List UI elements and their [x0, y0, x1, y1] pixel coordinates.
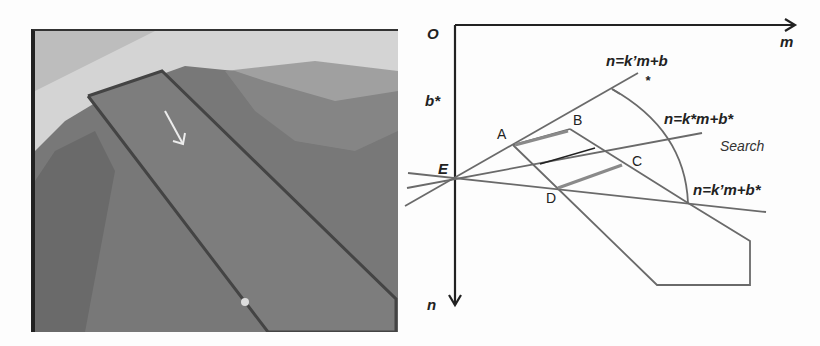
aerial-photo-image [35, 31, 398, 332]
axes [449, 19, 795, 305]
line-upper-star: * [645, 73, 650, 88]
point-c-label: C [632, 153, 642, 169]
search-region-label: Search [720, 138, 764, 154]
n-axis-label: n [427, 296, 436, 313]
boundary-lines [405, 73, 766, 212]
point-d-label: D [546, 190, 556, 206]
m-axis-label: m [780, 33, 793, 50]
aerial-photo [31, 29, 398, 332]
line-middle-label: n=k*m+b* [664, 110, 733, 127]
point-e-label: E [438, 160, 448, 177]
line-lower-label: n=k’m+b* [693, 181, 761, 198]
search-region [513, 89, 750, 285]
point-a-label: A [497, 126, 506, 142]
highlighted-segments [515, 131, 622, 188]
search-path-segment [540, 148, 595, 164]
origin-label: O [427, 25, 439, 42]
b-star-label: b* [425, 92, 440, 109]
line-upper-label: n=k’m+b [606, 52, 668, 69]
point-b-label: B [573, 112, 582, 128]
